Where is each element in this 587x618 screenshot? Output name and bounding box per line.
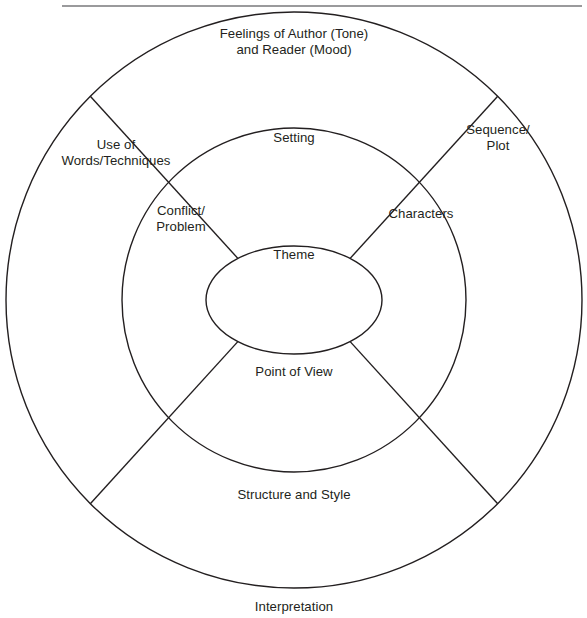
label-theme: Theme bbox=[244, 247, 344, 263]
label-setting: Setting bbox=[234, 130, 354, 146]
spoke-upper-left bbox=[90, 96, 241, 262]
label-characters: Characters bbox=[366, 206, 476, 222]
diagram-rings-canvas bbox=[0, 0, 587, 618]
literary-elements-diagram: Feelings of Author (Tone) and Reader (Mo… bbox=[0, 0, 587, 618]
label-conflict-problem: Conflict/ Problem bbox=[126, 203, 236, 234]
spoke-lower-right bbox=[346, 337, 497, 503]
label-use-of-words-techniques: Use of Words/Techniques bbox=[36, 137, 196, 168]
spoke-lower-left bbox=[90, 337, 241, 503]
label-structure-and-style: Structure and Style bbox=[204, 487, 384, 503]
label-point-of-view: Point of View bbox=[234, 364, 354, 380]
label-feelings-tone-mood: Feelings of Author (Tone) and Reader (Mo… bbox=[184, 26, 404, 57]
label-interpretation: Interpretation bbox=[204, 599, 384, 615]
label-sequence-plot: Sequence/ Plot bbox=[438, 122, 558, 153]
